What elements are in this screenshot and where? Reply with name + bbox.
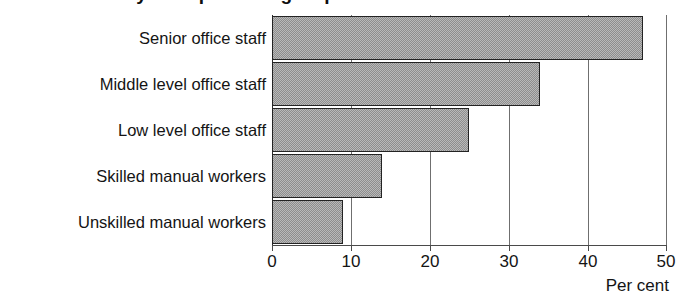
x-tick-label: 40 — [558, 253, 618, 270]
bar-senior-office-staff — [272, 16, 643, 60]
category-label: Senior office staff — [139, 30, 266, 47]
bar-skilled-manual-workers — [272, 154, 382, 198]
chart-row: Unskilled manual workers — [0, 200, 683, 244]
x-axis-title: Per cent — [606, 277, 669, 294]
x-tick-10 — [351, 246, 352, 251]
x-tick-label: 20 — [400, 253, 460, 270]
bar-unskilled-manual-workers — [272, 200, 343, 244]
x-tick-label: 10 — [321, 253, 381, 270]
category-label: Low level office staff — [118, 122, 266, 139]
x-tick-label: 50 — [636, 253, 683, 270]
x-tick-20 — [430, 246, 431, 251]
x-tick-label: 0 — [242, 253, 302, 270]
x-tick-0 — [272, 246, 273, 251]
x-axis-line — [272, 245, 667, 246]
x-tick-40 — [588, 246, 589, 251]
chart-row: Skilled manual workers — [0, 154, 683, 198]
category-label: Unskilled manual workers — [78, 214, 266, 231]
x-tick-label: 30 — [479, 253, 539, 270]
chart-row: Middle level office staff — [0, 62, 683, 106]
category-label: Skilled manual workers — [96, 168, 266, 185]
bar-low-level-office-staff — [272, 108, 469, 152]
x-tick-50 — [666, 246, 667, 251]
chart-row: Senior office staff — [0, 16, 683, 60]
category-label: Middle level office staff — [100, 76, 266, 93]
bar-chart: Senior office staff Middle level office … — [0, 0, 683, 306]
chart-row: Low level office staff — [0, 108, 683, 152]
bar-middle-level-office-staff — [272, 62, 540, 106]
x-tick-30 — [509, 246, 510, 251]
